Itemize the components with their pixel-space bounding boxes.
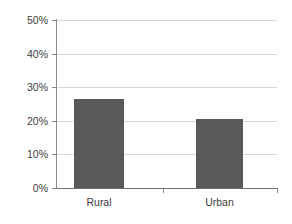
gridline-30 — [57, 87, 277, 88]
y-tick-20 — [52, 121, 57, 122]
x-axis-line — [57, 188, 278, 189]
y-tick-30 — [52, 87, 57, 88]
y-axis-label-30: 30% — [0, 82, 48, 93]
y-axis-label-0: 0% — [0, 183, 48, 194]
y-tick-10 — [52, 154, 57, 155]
gridline-50 — [57, 20, 277, 21]
plot-area — [57, 20, 277, 188]
bar-chart: 50% 40% 30% 20% 10% 0% Rural Urban — [0, 0, 292, 224]
y-tick-50 — [52, 20, 57, 21]
bar-urban — [196, 119, 243, 188]
y-axis-label-40: 40% — [0, 49, 48, 60]
y-tick-40 — [52, 54, 57, 55]
y-axis-label-20: 20% — [0, 116, 48, 127]
gridline-40 — [57, 54, 277, 55]
x-axis-label-rural: Rural — [74, 196, 124, 208]
x-tick-right-edge — [277, 189, 278, 193]
bar-rural — [74, 99, 124, 188]
y-axis-line — [56, 19, 57, 189]
x-axis-label-urban: Urban — [196, 196, 243, 208]
y-axis-label-50: 50% — [0, 15, 48, 26]
y-axis-label-10: 10% — [0, 149, 48, 160]
x-tick-center — [163, 189, 164, 193]
y-tick-0 — [52, 188, 57, 189]
